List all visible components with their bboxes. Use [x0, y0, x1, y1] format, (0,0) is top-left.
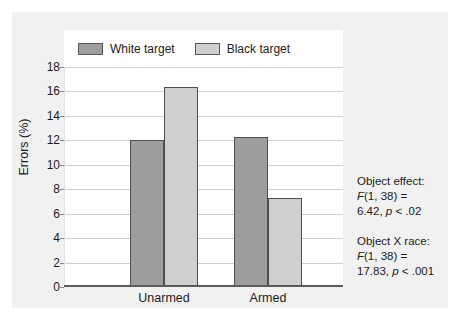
- legend-item-label: Black target: [227, 42, 290, 56]
- bar-unarmed-white: [130, 140, 164, 287]
- x-axis-baseline: [64, 285, 343, 287]
- annotation-block: Object effect:F(1, 38) =6.42, p < .02: [357, 174, 452, 219]
- gridline: [64, 116, 343, 117]
- y-axis-tick-label: 18: [42, 60, 60, 74]
- annotation-f-statistic: F(1, 38) =: [357, 249, 452, 264]
- y-axis-tick-mark: [60, 263, 64, 264]
- p-threshold: < .001: [399, 265, 435, 277]
- x-axis-tick-label: Unarmed: [138, 291, 189, 305]
- y-axis-tick-labels: 181614121086420: [38, 67, 60, 287]
- y-axis-tick-label: 8: [42, 182, 60, 196]
- p-threshold: < .02: [392, 205, 421, 217]
- chart-legend: White targetBlack target: [64, 30, 343, 67]
- plot-area: [64, 67, 343, 287]
- y-axis-tick-label: 4: [42, 231, 60, 245]
- y-axis-title: Errors (%): [17, 87, 31, 207]
- f-value: 6.42,: [357, 205, 386, 217]
- f-symbol: F: [357, 250, 364, 262]
- x-axis-tick-labels: UnarmedArmed: [64, 291, 343, 309]
- legend-item: White target: [78, 42, 175, 56]
- gridline: [64, 189, 343, 190]
- y-axis-tick-label: 16: [42, 84, 60, 98]
- f-degrees-freedom: (1, 38) =: [364, 250, 407, 262]
- y-axis-tick-mark: [60, 238, 64, 239]
- annotation-p-value: 17.83, p < .001: [357, 264, 452, 279]
- y-axis-tick-mark: [60, 91, 64, 92]
- legend-swatch-icon: [195, 43, 220, 55]
- legend-item: Black target: [195, 42, 290, 56]
- gridline: [64, 165, 343, 166]
- gridline: [64, 140, 343, 141]
- y-axis-tick-mark: [60, 189, 64, 190]
- gridline: [64, 67, 343, 68]
- legend-item-label: White target: [110, 42, 175, 56]
- figure-panel: White targetBlack target 181614121086420…: [12, 12, 448, 308]
- y-axis-tick-mark: [60, 165, 64, 166]
- y-axis-tick-mark: [60, 214, 64, 215]
- bar-armed-white: [234, 137, 268, 287]
- y-axis-tick-mark: [60, 287, 64, 288]
- f-degrees-freedom: (1, 38) =: [364, 190, 407, 202]
- gridline: [64, 91, 343, 92]
- f-value: 17.83,: [357, 265, 392, 277]
- y-axis-tick-label: 12: [42, 133, 60, 147]
- x-axis-tick-label: Armed: [250, 291, 287, 305]
- bar-unarmed-black: [164, 87, 198, 287]
- y-axis-line: [64, 67, 65, 287]
- y-axis-tick-label: 0: [42, 280, 60, 294]
- y-axis-tick-label: 2: [42, 256, 60, 270]
- y-axis-tick-mark: [60, 140, 64, 141]
- annotation-block: Object X race:F(1, 38) =17.83, p < .001: [357, 234, 452, 279]
- y-axis-tick-label: 6: [42, 207, 60, 221]
- f-symbol: F: [357, 190, 364, 202]
- legend-swatch-icon: [78, 43, 103, 55]
- y-axis-tick-marks: [60, 67, 64, 287]
- y-axis-tick-label: 10: [42, 158, 60, 172]
- annotation-f-statistic: F(1, 38) =: [357, 189, 452, 204]
- annotation-p-value: 6.42, p < .02: [357, 204, 452, 219]
- annotation-title: Object effect:: [357, 174, 452, 189]
- y-axis-tick-label: 14: [42, 109, 60, 123]
- y-axis-tick-mark: [60, 67, 64, 68]
- annotation-title: Object X race:: [357, 234, 452, 249]
- statistics-annotations: Object effect:F(1, 38) =6.42, p < .02Obj…: [357, 174, 452, 294]
- bar-armed-black: [268, 198, 302, 287]
- y-axis-tick-mark: [60, 116, 64, 117]
